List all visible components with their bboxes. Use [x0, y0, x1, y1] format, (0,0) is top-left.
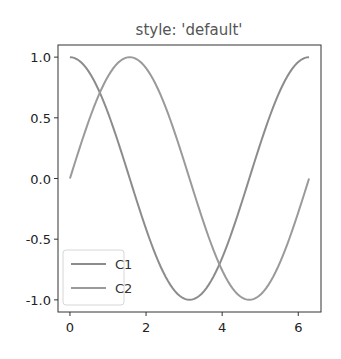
x-tick-label: 2	[142, 320, 150, 335]
chart-title: style: 'default'	[136, 21, 243, 39]
line-chart: style: 'default' 0246 1.00.50.0-0.5-1.0 …	[0, 0, 341, 359]
legend: C1 C2	[63, 250, 132, 305]
x-tick-label: 4	[218, 320, 226, 335]
y-tick-label: 1.0	[30, 50, 51, 65]
y-axis: 1.00.50.0-0.5-1.0	[26, 50, 58, 308]
x-tick-label: 0	[66, 320, 74, 335]
legend-label-c1: C1	[115, 257, 132, 272]
x-tick-label: 6	[294, 320, 302, 335]
y-tick-label: 0.5	[30, 111, 51, 126]
x-axis: 0246	[66, 312, 303, 335]
y-tick-label: -0.5	[26, 232, 51, 247]
legend-label-c2: C2	[115, 281, 132, 296]
y-tick-label: 0.0	[30, 172, 51, 187]
y-tick-label: -1.0	[26, 293, 51, 308]
